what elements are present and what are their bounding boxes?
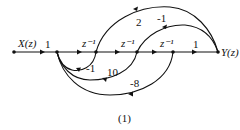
arrow-icon bbox=[40, 50, 45, 55]
gain-delay-1: z⁻¹ bbox=[81, 37, 96, 49]
input-label: X(z) bbox=[17, 37, 37, 50]
arrow-icon bbox=[152, 50, 157, 55]
gain-feedback-middle: 10 bbox=[107, 66, 119, 78]
arrow-icon bbox=[192, 50, 197, 55]
feedback-middle bbox=[57, 52, 137, 80]
node-input bbox=[12, 50, 16, 54]
gain-delay-3: z⁻¹ bbox=[159, 37, 174, 49]
arrow-icon bbox=[115, 50, 120, 55]
figure-caption: (1) bbox=[118, 112, 131, 125]
gain-delay-2: z⁻¹ bbox=[120, 37, 135, 49]
gain-output-branch: 1 bbox=[193, 38, 199, 50]
signal-flow-graph: X(z) 1 z⁻¹ z⁻¹ z⁻¹ 1 Y(z) 2 -1 -1 10 -8 … bbox=[0, 0, 240, 130]
gain-input-branch: 1 bbox=[45, 38, 51, 50]
arrow-icon bbox=[133, 7, 138, 12]
output-label: Y(z) bbox=[221, 46, 239, 59]
gain-feedforward-outer: 2 bbox=[136, 16, 142, 28]
arrow-icon bbox=[77, 50, 82, 55]
gain-feedback-outer: -8 bbox=[130, 77, 140, 89]
arrow-icon bbox=[102, 78, 107, 83]
gain-feedforward-inner: -1 bbox=[157, 12, 166, 24]
gain-feedback-inner: -1 bbox=[86, 62, 95, 74]
feedforward-inner bbox=[137, 25, 218, 52]
